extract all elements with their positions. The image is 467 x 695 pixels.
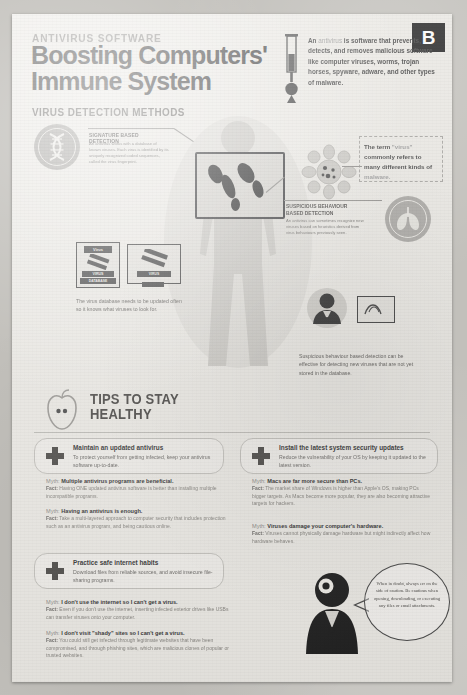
intro-definition: An antivirus is software that prevents, … xyxy=(308,36,436,88)
myth-left-1-fact: Fact: Having ONE updated antivirus softw… xyxy=(46,485,232,500)
infographic-page: B ANTIVIRUS SOFTWARE Boosting Computers'… xyxy=(0,0,467,695)
lungs-icon xyxy=(385,196,431,242)
myth-left-4: Myth: I don't visit "shady" sites so I c… xyxy=(46,630,232,660)
database-caption: The virus database needs to be updated o… xyxy=(76,297,186,314)
myth-left-1: Myth: Multiple antivirus programs are be… xyxy=(46,478,232,500)
laptop-icon xyxy=(357,296,395,323)
term-mid: commonly refers to many different kinds … xyxy=(364,153,432,170)
tips-divider xyxy=(34,432,430,433)
fact-text: Take a multi-layered approach to compute… xyxy=(46,515,225,529)
virus-icon xyxy=(301,144,357,200)
myth-right-2-text: Viruses damage your computer's hardware. xyxy=(267,523,383,529)
term-note: The term "virus" commonly refers to many… xyxy=(364,142,436,182)
monitor-stand xyxy=(142,282,164,287)
myth-left-3-text: I don't use the internet so I can't get … xyxy=(61,599,177,605)
virus-database-card: Virus VIRUS DATABASE xyxy=(76,242,120,288)
myth-right-1-text: Macs are far more secure than PCs. xyxy=(267,478,362,484)
tip-card-2: Install the latest system security updat… xyxy=(240,438,438,474)
fact-label: Fact: xyxy=(252,530,264,536)
cross-icon-1 xyxy=(46,447,64,465)
fact-text: Having ONE updated antivirus software is… xyxy=(46,485,217,499)
fact-label: Fact: xyxy=(46,515,58,521)
poster-sheet: B ANTIVIRUS SOFTWARE Boosting Computers'… xyxy=(12,14,452,682)
intro-lead: An xyxy=(308,37,318,44)
fact-text: Viruses cannot physically damage hardwar… xyxy=(252,530,430,544)
suspicious-heading: SUSPICIOUS BEHAVIOUR BASED DETECTION xyxy=(286,203,360,218)
myth-left-4-text: I don't visit "shady" sites so I can't g… xyxy=(61,630,184,636)
intro-body: is software that prevents, detects, and … xyxy=(308,37,435,86)
tips-title-line-1: TIPS TO STAY xyxy=(90,392,202,407)
tip-card-1-heading: Maintain an updated antivirus xyxy=(73,444,217,451)
db-card-bottom-label: DATABASE xyxy=(80,278,116,284)
myth-left-2: Myth: Having an antivirus is enough. Fac… xyxy=(46,508,232,530)
apple-icon xyxy=(42,389,82,431)
suspicious-heading-line-2: BASED DETECTION xyxy=(286,210,333,216)
tip-card-2-heading: Install the latest system security updat… xyxy=(279,444,433,451)
term-quoted: "virus" xyxy=(392,143,413,150)
myth-left-3: Myth: I don't use the internet so I can'… xyxy=(46,599,232,621)
myth-left-1-label: Myth: Multiple antivirus programs are be… xyxy=(46,478,232,484)
doctor-icon xyxy=(307,288,347,328)
tip-card-3-heading: Practice safe internet habits xyxy=(73,559,217,566)
myth-right-2: Myth: Viruses damage your computer's har… xyxy=(252,523,432,545)
myth-label: Myth: xyxy=(252,478,266,484)
connector-term xyxy=(342,166,362,167)
fact-label: Fact: xyxy=(46,485,58,491)
fact-text: The market share of Windows is higher th… xyxy=(252,485,430,506)
fact-text: You could still get infected through leg… xyxy=(46,637,229,658)
signature-body: An antivirus works with a database of kn… xyxy=(89,141,169,166)
tip-card-2-body: Reduce the vulnerability of your OS by k… xyxy=(279,453,433,469)
myth-label: Myth: xyxy=(46,478,60,484)
myth-label: Myth: xyxy=(46,630,60,636)
fact-label: Fact: xyxy=(252,485,264,491)
cross-icon-3 xyxy=(46,562,64,580)
tip-card-1-body: To protect yourself from getting infecte… xyxy=(73,453,217,469)
database-monitor: VIRUS xyxy=(127,244,181,284)
tip-card-1: Maintain an updated antivirus To protect… xyxy=(34,438,224,474)
myth-left-1-text: Multiple antivirus programs are benefici… xyxy=(61,478,173,484)
tip-card-3-body: Download files from reliable sources, an… xyxy=(73,568,217,584)
cross-icon-2 xyxy=(252,447,270,465)
intro-term: antivirus xyxy=(318,37,342,44)
db-card-mid-label: VIRUS xyxy=(82,271,114,277)
myth-label: Myth: xyxy=(252,523,266,529)
term-lead: The term xyxy=(364,143,392,150)
fact-label: Fact: xyxy=(46,606,58,612)
tips-title: TIPS TO STAY HEALTHY xyxy=(90,392,202,422)
fact-label: Fact: xyxy=(46,637,58,643)
dna-icon xyxy=(34,124,80,170)
advice-bubble-text: When in doubt, always err on the side of… xyxy=(373,580,441,610)
page-title-line-1: Boosting Computers' xyxy=(31,43,316,69)
suspicious-rule xyxy=(284,200,382,201)
myth-left-2-text: Having an antivirus is enough. xyxy=(61,508,142,514)
person-icon xyxy=(301,570,363,654)
term-tail: malware. xyxy=(364,173,390,180)
myth-right-1: Myth: Macs are far more secure than PCs.… xyxy=(252,478,432,508)
db-monitor-label: VIRUS xyxy=(137,271,171,277)
page-title-line-2: Immune System xyxy=(31,69,316,95)
suspicious-caption: Suspicious behaviour based detection can… xyxy=(299,352,423,377)
page-title: Boosting Computers' Immune System xyxy=(31,43,316,94)
tips-title-line-2: HEALTHY xyxy=(90,407,202,422)
fact-text: Even if you don't use the internet, inse… xyxy=(46,606,228,620)
syringe-icon xyxy=(280,32,302,110)
suspicious-heading-line-1: SUSPICIOUS BEHAVIOUR xyxy=(286,203,347,209)
myth-label: Myth: xyxy=(46,508,60,514)
db-card-top-label: Virus xyxy=(84,246,112,253)
suspicious-body: An antivirus can sometimes recognize new… xyxy=(286,218,364,236)
tip-card-3: Practice safe internet habits Download f… xyxy=(34,553,224,589)
myth-label: Myth: xyxy=(46,599,60,605)
